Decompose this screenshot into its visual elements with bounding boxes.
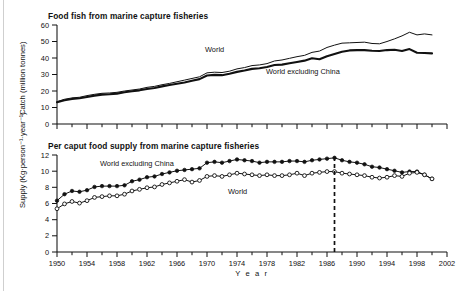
- data-point: [130, 180, 134, 184]
- x-tick-label-1974: 1974: [229, 259, 245, 268]
- data-point: [205, 161, 209, 165]
- catch-ytick-50: 50: [41, 37, 49, 46]
- data-point: [430, 177, 434, 181]
- data-point: [168, 181, 172, 185]
- data-point: [423, 173, 427, 177]
- data-point: [160, 183, 164, 187]
- data-point: [100, 184, 104, 188]
- catch-ytick-30: 30: [41, 70, 49, 79]
- x-tick-label-1962: 1962: [139, 259, 155, 268]
- data-point: [220, 175, 224, 179]
- catch-ytick-20: 20: [41, 87, 49, 96]
- data-point: [190, 167, 194, 171]
- supply-ytick-8: 8: [45, 183, 49, 192]
- supply-ytick-4: 4: [45, 215, 49, 224]
- supply-ytick-0: 0: [45, 248, 49, 257]
- data-point: [415, 170, 419, 174]
- data-point: [63, 202, 67, 206]
- data-point: [400, 171, 404, 175]
- panel-supply-y-axis-title: Supply (Kg·person⁻¹·year⁻¹): [18, 112, 27, 208]
- data-point: [273, 160, 277, 164]
- panel-supply-title: Per caput food supply from marine captur…: [48, 141, 259, 151]
- panel-catch-title: Food fish from marine capture fisheries: [48, 11, 208, 21]
- data-point: [355, 173, 359, 177]
- x-axis-title: Y e a r: [235, 269, 268, 278]
- data-point: [243, 172, 247, 176]
- data-point: [363, 174, 367, 178]
- data-point: [280, 160, 284, 164]
- x-tick-label-1982: 1982: [289, 259, 305, 268]
- data-point: [145, 186, 149, 190]
- catch-line-world-excluding-china: [57, 49, 432, 102]
- data-point: [310, 171, 314, 175]
- x-tick-label-1978: 1978: [259, 259, 275, 268]
- catch-ytick-10: 10: [41, 103, 49, 112]
- data-point: [123, 192, 127, 196]
- data-point: [108, 184, 112, 188]
- data-point: [400, 175, 404, 179]
- data-point: [153, 175, 157, 179]
- data-point: [78, 190, 82, 194]
- data-point: [348, 160, 352, 164]
- data-point: [190, 180, 194, 184]
- x-tick-label-1990: 1990: [349, 259, 365, 268]
- data-point: [325, 170, 329, 174]
- panel-supply-y-ticks: 0 2 4 6 8 10 12: [41, 151, 57, 257]
- panel-catch: Food fish from marine capture fisheries …: [18, 11, 447, 129]
- data-point: [348, 172, 352, 176]
- data-point: [363, 163, 367, 167]
- data-point: [250, 159, 254, 163]
- data-point: [138, 178, 142, 182]
- x-tick-label-1986: 1986: [319, 259, 335, 268]
- supply-ytick-2: 2: [45, 231, 49, 240]
- data-point: [340, 171, 344, 175]
- supply-ytick-10: 10: [41, 167, 49, 176]
- data-point: [153, 185, 157, 189]
- data-point: [288, 159, 292, 163]
- data-point: [115, 184, 119, 188]
- data-point: [93, 185, 97, 189]
- data-point: [243, 159, 247, 163]
- data-point: [408, 171, 412, 175]
- data-point: [70, 200, 74, 204]
- data-point: [265, 160, 269, 164]
- panel-supply-x-tick-labels: 1950195419581962196619701974197819821986…: [49, 259, 455, 268]
- data-point: [258, 174, 262, 178]
- data-point: [168, 171, 172, 175]
- data-point: [295, 159, 299, 163]
- x-tick-label-1994: 1994: [379, 259, 395, 268]
- data-point: [295, 171, 299, 175]
- catch-ytick-0: 0: [45, 120, 49, 129]
- x-tick-label-2002: 2002: [439, 259, 455, 268]
- data-point: [265, 173, 269, 177]
- data-point: [55, 207, 59, 211]
- x-tick-label-1998: 1998: [409, 259, 425, 268]
- data-point: [183, 168, 187, 172]
- data-point: [280, 174, 284, 178]
- data-point: [378, 176, 382, 180]
- supply-ytick-12: 12: [41, 151, 49, 160]
- data-point: [220, 161, 224, 165]
- data-point: [235, 171, 239, 175]
- data-point: [325, 157, 329, 161]
- panel-supply: Per caput food supply from marine captur…: [18, 112, 455, 278]
- data-point: [303, 160, 307, 164]
- panel-catch-axes: [57, 25, 447, 124]
- supply-series-label-world: World: [228, 187, 247, 196]
- data-point: [160, 172, 164, 176]
- data-point: [85, 199, 89, 203]
- data-point: [205, 175, 209, 179]
- panel-catch-y-axis-title: Catch (million tonnes): [18, 41, 27, 115]
- data-point: [213, 174, 217, 178]
- supply-ytick-6: 6: [45, 199, 49, 208]
- x-tick-label-1966: 1966: [169, 259, 185, 268]
- data-point: [378, 166, 382, 170]
- data-point: [70, 189, 74, 193]
- data-point: [318, 170, 322, 174]
- catch-ytick-60: 60: [41, 21, 49, 30]
- supply-series-label-world-excluding-china: World excluding China: [100, 159, 175, 168]
- data-point: [385, 167, 389, 171]
- data-point: [198, 167, 202, 171]
- fisheries-figure: Food fish from marine capture fisheries …: [0, 0, 471, 291]
- data-point: [340, 159, 344, 163]
